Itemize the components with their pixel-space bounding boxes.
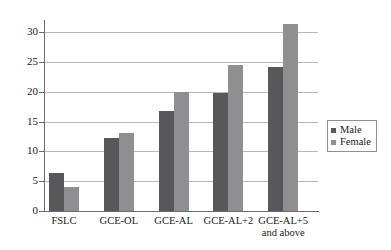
y-tick-label-5: 5 (14, 175, 38, 186)
bar-female[interactable] (228, 65, 243, 211)
bar-female[interactable] (119, 133, 134, 211)
bar-male[interactable] (268, 67, 283, 211)
y-tick-label-25: 25 (14, 56, 38, 67)
bar-female[interactable] (174, 92, 189, 211)
bar-group (104, 20, 134, 211)
y-tick-mark-15 (39, 122, 45, 123)
bar-group (49, 20, 79, 211)
bar-male[interactable] (213, 93, 228, 211)
x-axis-line (44, 211, 319, 212)
y-tick-label-15: 15 (14, 116, 38, 127)
y-tick-mark-5 (39, 181, 45, 182)
plot-area (44, 20, 318, 211)
y-tick-mark-10 (39, 151, 45, 152)
legend-item-female[interactable]: Female (331, 136, 371, 148)
bar-group (213, 20, 243, 211)
legend-label-male: Male (340, 124, 362, 136)
bar-chart: 051015202530 FSLCGCE-OLGCE-ALGCE-AL+2GCE… (0, 0, 391, 250)
bar-male[interactable] (49, 173, 64, 211)
bar-group (268, 20, 298, 211)
bar-group (159, 20, 189, 211)
y-axis-line (44, 20, 45, 212)
male-swatch-icon (331, 128, 336, 133)
y-tick-mark-25 (39, 62, 45, 63)
legend-item-male[interactable]: Male (331, 124, 371, 136)
legend-label-female: Female (340, 136, 371, 148)
y-tick-mark-30 (39, 32, 45, 33)
y-tick-label-20: 20 (14, 86, 38, 97)
y-tick-mark-20 (39, 92, 45, 93)
bar-male[interactable] (159, 111, 174, 211)
y-tick-label-30: 30 (14, 26, 38, 37)
chart-legend[interactable]: Male Female (327, 120, 377, 152)
bar-female[interactable] (283, 24, 298, 211)
bar-male[interactable] (104, 138, 119, 211)
female-swatch-icon (331, 140, 336, 145)
category-label: GCE-AL+5 and above (243, 215, 323, 239)
y-tick-label-10: 10 (14, 145, 38, 156)
bar-female[interactable] (64, 187, 79, 212)
y-tick-mark-0 (39, 211, 45, 212)
